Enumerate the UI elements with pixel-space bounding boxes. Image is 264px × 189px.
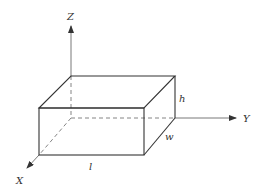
y-axis-label: Y	[243, 113, 251, 124]
x-axis-label: X	[15, 175, 24, 186]
width-label: w	[165, 131, 174, 142]
box-diagram: Z Y X l w h	[0, 0, 264, 189]
box-edges	[39, 76, 175, 155]
height-label: h	[179, 93, 185, 104]
x-axis	[27, 155, 39, 168]
length-label: l	[89, 161, 92, 172]
z-axis-label: Z	[66, 11, 75, 22]
